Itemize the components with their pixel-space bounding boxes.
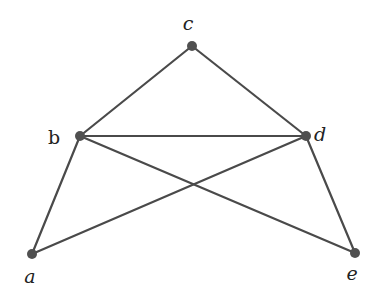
node-label-c: c bbox=[183, 14, 194, 33]
node-label-b: b bbox=[48, 128, 60, 147]
node-c bbox=[187, 41, 197, 51]
edge-c-d bbox=[192, 46, 306, 136]
graph-diagram: a b c d e bbox=[0, 0, 380, 298]
node-b bbox=[75, 131, 85, 141]
edge-group bbox=[32, 46, 355, 254]
node-a bbox=[27, 249, 37, 259]
edge-c-b bbox=[80, 46, 192, 136]
node-d bbox=[301, 131, 311, 141]
node-label-d: d bbox=[314, 125, 326, 144]
node-label-e: e bbox=[346, 264, 357, 283]
node-group bbox=[27, 41, 360, 259]
node-label-a: a bbox=[24, 267, 35, 286]
graph-drawing bbox=[0, 0, 380, 298]
node-e bbox=[350, 248, 360, 258]
